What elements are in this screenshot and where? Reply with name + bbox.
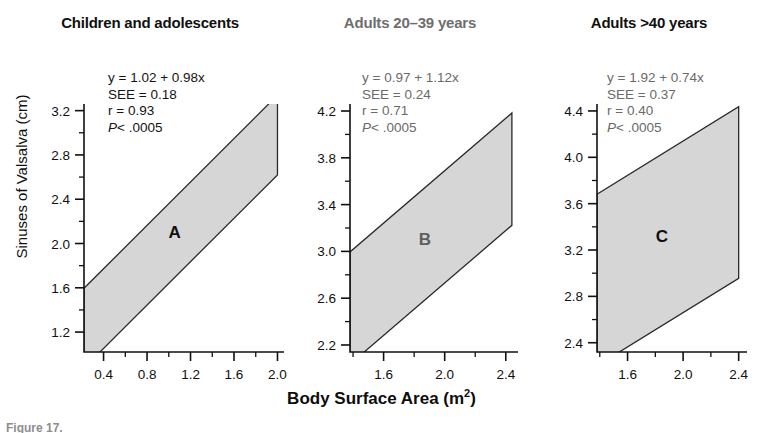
y-tick-label: 3.0 (317, 244, 336, 259)
band-letter-c: C (656, 227, 668, 246)
band-letter-b: B (419, 230, 431, 249)
y-tick-label: 4.4 (564, 104, 583, 119)
y-tick-label: 2.2 (317, 338, 336, 353)
x-tick-label: 1.6 (618, 367, 637, 382)
x-tick-label: 2.0 (674, 367, 693, 382)
figure-root: Children and adolescents y = 1.02 + 0.98… (0, 0, 763, 433)
x-tick-label: 1.6 (374, 367, 393, 382)
y-tick-label: 1.2 (51, 325, 70, 340)
x-tick-label: 0.4 (94, 367, 113, 382)
panel-b-plot: 2.22.63.03.43.84.21.62.02.4B (286, 0, 534, 400)
x-tick-label: 2.0 (268, 367, 287, 382)
x-tick-label: 1.2 (181, 367, 200, 382)
y-tick-label: 2.4 (51, 192, 70, 207)
x-tick-label: 2.0 (435, 367, 454, 382)
y-tick-label: 4.2 (317, 104, 336, 119)
y-tick-label: 2.0 (51, 237, 70, 252)
y-tick-label: 4.0 (564, 150, 583, 165)
y-axis-title: Sinuses of Valsalva (cm) (13, 52, 30, 302)
y-tick-label: 3.6 (564, 197, 583, 212)
panel-adults-20-39: Adults 20–39 years y = 0.97 + 1.12x SEE … (286, 0, 534, 400)
x-tick-label: 2.4 (729, 367, 748, 382)
figure-caption: Figure 17. (6, 421, 63, 433)
band-letter-a: A (169, 223, 181, 242)
x-axis-title-close: ) (470, 389, 476, 408)
x-tick-label: 1.6 (225, 367, 244, 382)
x-axis-title: Body Surface Area (m2) (0, 387, 763, 409)
y-tick-label: 3.2 (51, 104, 70, 119)
panel-a-plot: 1.21.62.02.42.83.20.40.81.21.62.0A (0, 0, 300, 400)
y-tick-label: 2.4 (564, 336, 583, 351)
y-tick-label: 3.2 (564, 243, 583, 258)
panel-c-plot: 2.42.83.23.64.04.41.62.02.4C (535, 0, 763, 400)
panel-children-adolescents: Children and adolescents y = 1.02 + 0.98… (0, 0, 300, 400)
x-axis-title-text: Body Surface Area (m (287, 389, 464, 408)
y-tick-label: 2.8 (564, 289, 583, 304)
y-tick-label: 2.8 (51, 148, 70, 163)
panel-adults-over-40: Adults >40 years y = 1.92 + 0.74x SEE = … (535, 0, 763, 400)
y-tick-label: 2.6 (317, 291, 336, 306)
y-tick-label: 3.4 (317, 198, 336, 213)
y-tick-label: 1.6 (51, 281, 70, 296)
x-tick-label: 2.4 (496, 367, 515, 382)
x-tick-label: 0.8 (138, 367, 157, 382)
y-tick-label: 3.8 (317, 151, 336, 166)
